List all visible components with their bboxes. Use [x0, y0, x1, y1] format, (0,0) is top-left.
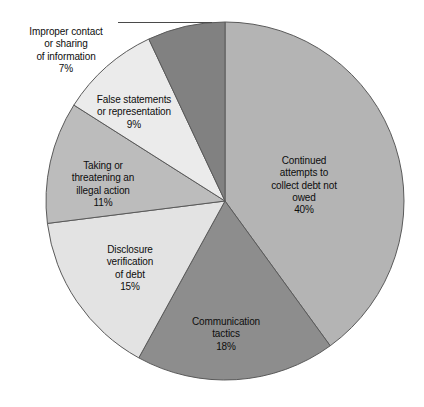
pie-chart: Continued attempts to collect debt not o… [0, 0, 424, 407]
pie-chart-canvas [0, 0, 424, 407]
pie-slices [46, 22, 404, 380]
